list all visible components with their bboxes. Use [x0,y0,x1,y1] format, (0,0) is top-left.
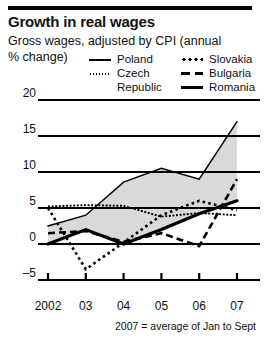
subtitle-line-1: Gross wages, adjusted by CPI (annual [8,34,221,48]
x-axis-tick-label: 2002 [35,300,62,313]
legend-column-right: Slovakia Bulgaria Romania [180,52,266,94]
legend-label-poland: Poland [117,52,153,66]
chart-card: Growth in real wages Gross wages, adjust… [0,0,266,341]
legend-item-bulgaria: Bulgaria [180,66,266,80]
line-swatch-czech-icon [88,67,112,79]
legend-item-slovakia: Slovakia [180,52,266,66]
top-rule-divider [8,6,252,10]
line-swatch-poland-icon [88,53,112,65]
chart-footnote: 2007 = average of Jan to Sept [115,320,256,332]
legend-label-bulgaria: Bulgaria [209,66,251,80]
x-axis-labels: 20020304050607 [0,300,266,318]
plot-area: –505101520 [0,96,266,296]
legend-column-left: Poland Czech Republic [88,52,174,94]
chart-canvas [0,96,266,296]
x-axis-tick-label: 03 [79,300,92,313]
x-axis-tick-label: 05 [155,300,168,313]
legend-item-czech-republic-line2: Republic [88,80,174,94]
line-swatch-romania-icon [180,81,204,93]
legend-item-poland: Poland [88,52,174,66]
line-swatch-bulgaria-icon [180,67,204,79]
line-swatch-slovakia-icon [180,53,204,65]
legend-label-republic: Republic [117,80,162,94]
x-axis-tick-label: 04 [117,300,130,313]
legend-item-czech: Czech [88,66,174,80]
legend-label-slovakia: Slovakia [209,52,252,66]
legend-label-romania: Romania [209,80,255,94]
x-axis-tick-label: 07 [230,300,243,313]
legend-item-romania: Romania [180,80,266,94]
x-axis-tick-label: 06 [193,300,206,313]
page-title: Growth in real wages [8,13,155,30]
legend-label-czech: Czech [117,66,150,80]
